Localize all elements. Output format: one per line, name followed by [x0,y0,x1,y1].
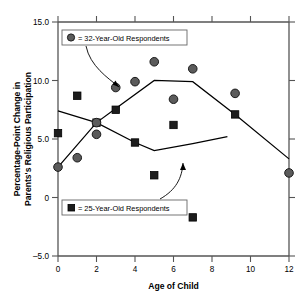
data-point-circle [150,57,159,66]
data-point-circle [92,130,101,139]
x-tick-label-2: 2 [94,265,99,274]
legend-25-year[interactable]: = 25-Year-Old Respondents [62,200,187,215]
legend-label-32-year: = 32-Year-Old Respondents [78,34,170,43]
arrow-curve-25-year [160,163,183,199]
arrow-head-25-year [180,163,186,170]
data-point-square [189,214,196,221]
x-axis-ticks [58,16,289,262]
data-point-circle [169,95,178,104]
x-tick-label-6: 6 [171,265,176,274]
y-axis-title-line2: Parents's Religious Participation [23,72,33,206]
plot-axes [58,22,289,256]
data-markers-32-year [54,57,294,177]
data-point-square [54,129,61,136]
trend-line-25-year [58,111,227,151]
y-tick-label-neg5: –5.0 [33,252,49,261]
circle-marker-icon [67,34,74,41]
x-tick-label-12: 12 [284,265,294,274]
data-point-square [231,111,238,118]
x-axis-title: Age of Child [148,281,199,291]
data-point-circle [92,118,101,127]
x-tick-label-0: 0 [56,265,61,274]
chart-figure: 15.0 10.0 5.0 0 –5.0 0 2 4 6 8 10 12 [0,0,305,304]
y-tick-label-5: 5.0 [38,135,50,144]
data-point-square [74,92,81,99]
annotation-arrow-25-year [160,163,186,199]
square-marker-icon [68,204,75,211]
data-point-circle [285,169,294,178]
scatter-plot-svg: 15.0 10.0 5.0 0 –5.0 0 2 4 6 8 10 12 [0,0,305,304]
y-tick-label-15: 15.0 [33,18,49,27]
data-point-circle [54,163,63,172]
legend-label-25-year: = 25-Year-Old Respondents [78,204,170,213]
y-tick-label-10: 10.0 [33,77,49,86]
legend-32-year[interactable]: = 32-Year-Old Respondents [62,30,187,45]
data-point-square [112,106,119,113]
data-point-square [170,121,177,128]
data-point-circle [231,89,240,98]
y-tick-label-0: 0 [44,194,49,203]
arrow-curve-32-year [86,46,119,87]
x-tick-label-10: 10 [246,265,256,274]
annotation-arrow-32-year [86,46,119,87]
x-tick-label-8: 8 [210,265,215,274]
x-tick-label-4: 4 [133,265,138,274]
y-axis-ticks [52,22,295,256]
data-point-square [131,139,138,146]
data-point-circle [73,153,82,162]
data-point-circle [188,65,197,74]
data-point-square [151,172,158,179]
y-axis-title-line1: Percentage-Point Change in [12,82,22,197]
data-point-circle [131,77,140,86]
